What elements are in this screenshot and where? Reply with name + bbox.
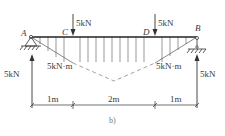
load-arrow-D: [153, 14, 158, 36]
reaction-label-A: 5kN: [4, 69, 20, 79]
moment-hatch: [40, 37, 186, 62]
load-arrow-C: [71, 14, 76, 36]
moment-label-D: 5kN·m: [156, 61, 182, 71]
point-label-A: A: [20, 28, 27, 38]
reaction-arrow-A: [30, 54, 35, 108]
load-label-C: 5kN: [76, 18, 92, 28]
dimension-label-3: 1m: [170, 94, 182, 104]
point-label-B: B: [195, 23, 201, 33]
roller-support-icon: [187, 37, 206, 54]
dimension-label-1: 1m: [47, 94, 59, 104]
moment-outline-left: [31, 37, 73, 63]
dimension-label-2: 2m: [108, 94, 120, 104]
reaction-arrow-B: [195, 54, 200, 108]
dashed-moment-line: [73, 63, 155, 81]
load-label-D: 5kN: [158, 18, 174, 28]
point-label-C: C: [62, 27, 69, 37]
figure-caption: b): [109, 116, 116, 125]
moment-outline-right: [155, 37, 197, 63]
moment-label-C: 5kN·m: [47, 61, 73, 71]
point-label-D: D: [142, 27, 150, 37]
reaction-label-B: 5kN: [200, 69, 216, 79]
beam-diagram: A C D B 5kN 5kN 5kN 5kN 5kN·m 5kN·m 1m 2…: [0, 0, 225, 136]
